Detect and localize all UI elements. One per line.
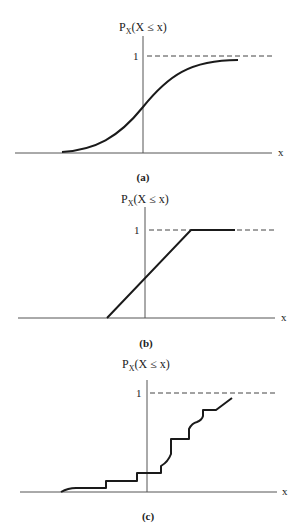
x-axis-label-c: x	[282, 485, 288, 497]
panel-a: PX(X ≤ x) x 1 (a)	[15, 20, 284, 184]
caption-a: (a)	[137, 171, 150, 184]
x-axis-label-a: x	[278, 146, 284, 158]
tick-one-b: 1	[134, 224, 140, 236]
y-axis-label-c: PX(X ≤ x)	[122, 357, 170, 373]
y-axis-label-b: PX(X ≤ x)	[121, 192, 169, 208]
y-axis-label-a: PX(X ≤ x)	[119, 20, 167, 36]
caption-b: (b)	[139, 337, 153, 350]
x-axis-label-b: x	[281, 311, 287, 323]
caption-c: (c)	[142, 510, 155, 523]
cdf-curve-b	[107, 230, 235, 318]
cdf-figure: PX(X ≤ x) x 1 (a) PX(X ≤ x) x 1 (b) PX(X…	[0, 0, 301, 532]
tick-one-a: 1	[133, 50, 139, 62]
panel-b: PX(X ≤ x) x 1 (b)	[18, 192, 287, 350]
panel-c: PX(X ≤ x) x 1 (c)	[20, 357, 288, 523]
cdf-curve-a	[62, 60, 238, 152]
tick-one-c: 1	[136, 387, 142, 399]
